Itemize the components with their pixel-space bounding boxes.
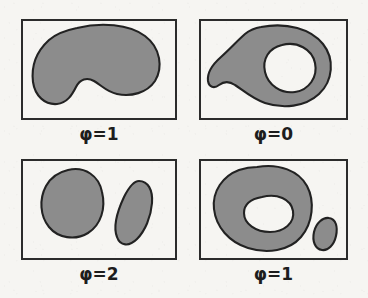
- blob-kidney: [33, 25, 160, 104]
- diagram-panel-1: φ=1: [21, 19, 177, 120]
- blob-round-left: [41, 169, 103, 237]
- panel-3-shapes: [21, 159, 177, 260]
- panel-2-label: φ=0: [199, 126, 348, 143]
- diagram-panel-3: φ=2: [21, 159, 177, 260]
- blob-elongated-right: [115, 181, 152, 244]
- panel-4-label: φ=1: [199, 266, 348, 283]
- diagram-panel-2: φ=0: [199, 19, 348, 120]
- panel-2-shapes: [199, 19, 348, 120]
- blob-small-right: [313, 218, 336, 250]
- diagram-panel-4: φ=1: [199, 159, 348, 260]
- panel-3-label: φ=2: [21, 266, 177, 283]
- panel-1-shapes: [21, 19, 177, 120]
- blob-annulus-large: [214, 166, 312, 251]
- blob-annulus: [208, 25, 331, 106]
- panel-4-shapes: [199, 159, 348, 260]
- euler-characteristic-figure: φ=1 φ=0 φ=2 φ=1: [0, 0, 368, 298]
- panel-1-label: φ=1: [21, 126, 177, 143]
